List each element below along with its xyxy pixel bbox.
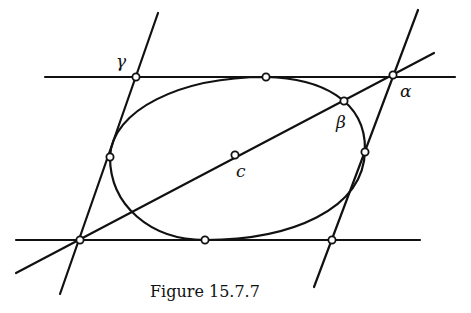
point-top-tangent [262,73,269,80]
point-alpha [389,71,396,78]
label-center: c [236,161,246,181]
point-bottom-tangent [201,236,208,243]
point-gamma [132,73,139,80]
label-gamma: γ [116,51,127,71]
point-beta [340,97,347,104]
label-alpha: α [400,81,412,101]
point-bottom-right-corner [328,236,335,243]
label-beta: β [335,112,346,132]
point-center [231,151,238,158]
point-bottom-left-corner [76,236,83,243]
figure-canvas: γ α β c Figure 15.7.7 [0,0,471,313]
point-right-tangent [361,148,368,155]
figure-caption: Figure 15.7.7 [150,282,260,301]
point-left-tangent [106,153,113,160]
